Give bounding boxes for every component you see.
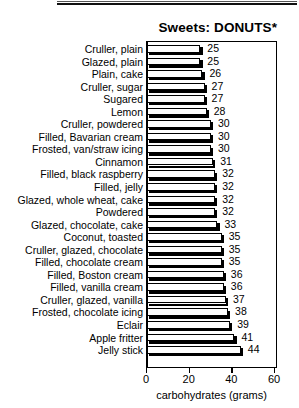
bar-wrapper xyxy=(147,221,220,231)
bar-wrapper xyxy=(147,183,218,193)
bar-shadow-bottom xyxy=(149,65,202,68)
bar-row: Glazed, chocolate, cake33 xyxy=(0,220,299,233)
bar-category-label: Cruller, powdered xyxy=(61,119,143,130)
bar-value-label: 32 xyxy=(222,206,234,217)
bar xyxy=(147,283,224,291)
bar-value-label: 33 xyxy=(224,219,236,230)
bar xyxy=(147,258,222,266)
bar xyxy=(147,170,215,178)
bar-wrapper xyxy=(147,108,210,118)
bar-value-label: 37 xyxy=(233,294,245,305)
bar-value-label: 36 xyxy=(231,281,243,292)
bar xyxy=(147,308,228,316)
x-axis-tick-label: 0 xyxy=(143,373,149,385)
bar-shadow-bottom xyxy=(149,291,226,294)
bar-value-label: 26 xyxy=(209,68,221,79)
bar-shadow-bottom xyxy=(149,191,217,194)
bar-wrapper xyxy=(147,196,218,206)
bar-shadow-bottom xyxy=(149,203,217,206)
bar-shadow-bottom xyxy=(149,241,224,244)
bar-shadow-bottom xyxy=(149,253,224,256)
bar xyxy=(147,346,241,354)
bar xyxy=(147,221,217,229)
bar-wrapper xyxy=(147,321,233,331)
x-axis-tick-label: 40 xyxy=(225,373,237,385)
bar-category-label: Eclair xyxy=(117,320,143,331)
bar-wrapper xyxy=(147,70,205,80)
bar xyxy=(147,158,213,166)
bar-value-label: 39 xyxy=(237,319,249,330)
bar xyxy=(147,334,234,342)
bar xyxy=(147,183,215,191)
bar-value-label: 44 xyxy=(248,344,260,355)
bar-category-label: Lemon xyxy=(111,107,143,118)
bar-shadow-bottom xyxy=(149,266,224,269)
bar-category-label: Cinnamon xyxy=(95,157,143,168)
bar-shadow-bottom xyxy=(149,341,236,344)
bar-value-label: 25 xyxy=(207,43,219,54)
bar-value-label: 38 xyxy=(235,306,247,317)
bar xyxy=(147,108,207,116)
bar-category-label: Filled, Bavarian cream xyxy=(39,132,143,143)
bar-category-label: Cruller, glazed, vanilla xyxy=(40,295,143,306)
bar-value-label: 41 xyxy=(241,332,253,343)
bar-shadow-bottom xyxy=(149,329,232,332)
bar-category-label: Filled, chocolate cream xyxy=(35,257,143,268)
bar-shadow-bottom xyxy=(149,90,207,93)
bar-shadow-bottom xyxy=(149,115,209,118)
bar-category-label: Powdered xyxy=(96,207,143,218)
bar xyxy=(147,233,222,241)
bar-shadow-bottom xyxy=(149,103,207,106)
bar xyxy=(147,271,224,279)
bar-wrapper xyxy=(147,95,208,105)
bar xyxy=(147,120,211,128)
bar xyxy=(147,208,215,216)
bar-row: Coconut, toasted35 xyxy=(0,232,299,245)
bar-row: Frosted, van/straw icing30 xyxy=(0,144,299,157)
bar-row: Powdered32 xyxy=(0,207,299,220)
bar-rows: Cruller, plain25Glazed, plain25Plain, ca… xyxy=(0,44,299,366)
bar-category-label: Cruller, glazed, chocolate xyxy=(25,245,143,256)
bar-wrapper xyxy=(147,158,216,168)
bar-category-label: Sugared xyxy=(103,94,143,105)
bar-category-label: Filled, Boston cream xyxy=(47,270,143,281)
bar-row: Filled, chocolate cream35 xyxy=(0,257,299,270)
bar-wrapper xyxy=(147,145,214,155)
bar-value-label: 28 xyxy=(214,106,226,117)
bar-row: Cruller, sugar27 xyxy=(0,82,299,95)
bar xyxy=(147,133,211,141)
bar-wrapper xyxy=(147,346,244,356)
bar-category-label: Glazed, whole wheat, cake xyxy=(18,195,144,206)
bar-category-label: Glazed, chocolate, cake xyxy=(31,220,143,231)
bar-shadow-bottom xyxy=(149,316,230,319)
bar-value-label: 32 xyxy=(222,181,234,192)
bar-row: Filled, Boston cream36 xyxy=(0,270,299,283)
bar xyxy=(147,145,211,153)
bar-row: Glazed, plain25 xyxy=(0,57,299,70)
bar-value-label: 30 xyxy=(218,118,230,129)
bar-row: Sugared27 xyxy=(0,94,299,107)
bar xyxy=(147,83,205,91)
bar-row: Frosted, chocolate icing38 xyxy=(0,307,299,320)
bar-shadow-bottom xyxy=(149,140,213,143)
bar-category-label: Filled, jelly xyxy=(94,182,143,193)
bar-wrapper xyxy=(147,120,214,130)
bar-row: Cruller, powdered30 xyxy=(0,119,299,132)
bar-wrapper xyxy=(147,283,227,293)
bar-category-label: Frosted, van/straw icing xyxy=(32,144,143,155)
bar-category-label: Filled, vanilla cream xyxy=(50,282,143,293)
bar xyxy=(147,45,200,53)
bar-wrapper xyxy=(147,83,208,93)
bar-row: Filled, black raspberry32 xyxy=(0,169,299,182)
x-axis-tick-label: 60 xyxy=(268,373,280,385)
bar-wrapper xyxy=(147,296,229,306)
bar-shadow-bottom xyxy=(149,228,219,231)
bar-shadow-bottom xyxy=(149,304,228,307)
bar-value-label: 36 xyxy=(231,269,243,280)
bar-row: Jelly stick44 xyxy=(0,345,299,358)
bar-value-label: 31 xyxy=(220,156,232,167)
bar-wrapper xyxy=(147,233,225,243)
page-rule xyxy=(57,3,297,5)
bar xyxy=(147,296,226,304)
bar-shadow-bottom xyxy=(149,53,202,56)
